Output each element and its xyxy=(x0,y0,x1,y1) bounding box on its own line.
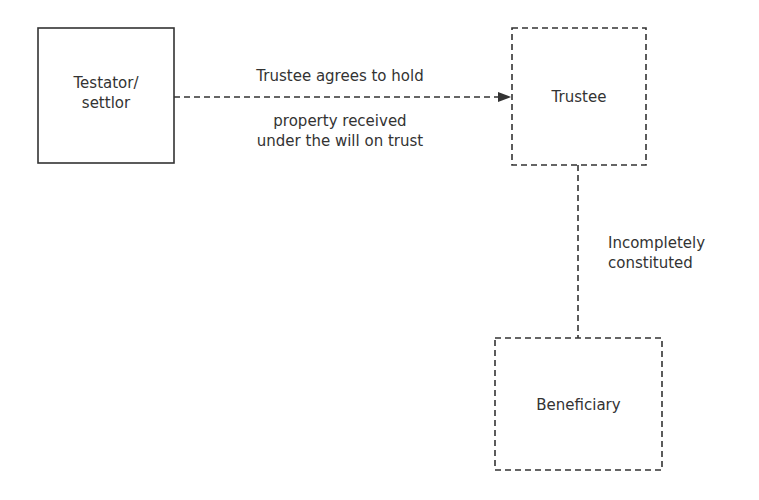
incompletely-constituted-label: Incompletely constituted xyxy=(608,233,705,273)
testator-label: Testator/ settlor xyxy=(38,73,174,113)
beneficiary-label: Beneficiary xyxy=(495,395,662,415)
edge-label-above: Trustee agrees to hold xyxy=(190,66,490,86)
trustee-label: Trustee xyxy=(512,87,646,107)
edge-label-below: property received under the will on trus… xyxy=(190,111,490,151)
arrowhead-icon xyxy=(498,92,511,102)
